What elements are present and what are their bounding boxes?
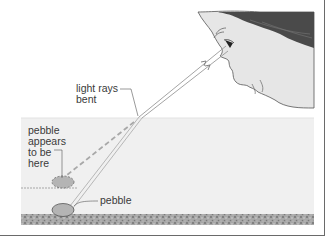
real-pebble <box>52 204 74 217</box>
light-rays <box>139 46 228 118</box>
label-text: here <box>28 158 66 169</box>
label-pebble: pebble <box>100 195 132 206</box>
label-pebble-appears-here: pebble appears to be here <box>28 125 66 169</box>
refraction-diagram <box>0 0 335 243</box>
label-text: pebble <box>100 194 132 206</box>
face-observer <box>198 11 314 108</box>
label-text: bent <box>76 94 118 105</box>
label-light-rays-bent: light rays bent <box>76 83 118 105</box>
